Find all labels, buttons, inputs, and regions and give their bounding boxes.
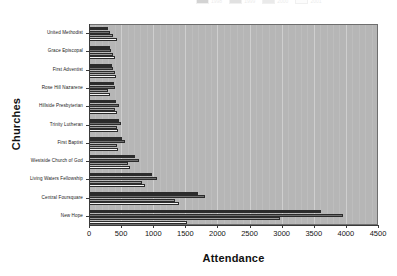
x-axis-line	[89, 225, 379, 226]
legend-label: 1999	[244, 0, 255, 4]
x-axis-tick-label: 4500	[370, 229, 387, 238]
x-axis-tick-labels: 050010001500200025003000350040004500	[0, 229, 397, 243]
x-axis-tick-label: 2500	[241, 229, 258, 238]
y-axis-tick-labels: United MethodistGrace EpiscopalFirst Adv…	[0, 24, 397, 225]
y-axis-tick	[86, 106, 89, 107]
legend-item: 1999	[229, 0, 255, 4]
legend-swatch	[196, 0, 209, 4]
legend-swatch	[295, 0, 308, 4]
y-axis-tick-label: Westside Church of God	[0, 158, 86, 163]
x-axis-tick-label: 3500	[305, 229, 322, 238]
y-axis-tick-label: First Adventist	[0, 67, 86, 72]
legend-label: 2001	[310, 0, 321, 4]
legend-item: 2000	[262, 0, 288, 4]
x-axis-tick-label: 1500	[177, 229, 194, 238]
x-axis-tick	[185, 225, 186, 228]
y-axis-tick-label: Central Foursquare	[0, 195, 86, 200]
x-axis-tick	[282, 225, 283, 228]
legend-swatch	[229, 0, 242, 4]
y-axis-tick	[86, 70, 89, 71]
y-axis-tick-label: New Hope	[0, 213, 86, 218]
x-axis-tick	[346, 225, 347, 228]
legend-label: 1998	[211, 0, 222, 4]
x-axis-tick	[378, 225, 379, 228]
x-axis-tick-label: 3000	[273, 229, 290, 238]
x-axis-tick	[121, 225, 122, 228]
y-axis-tick	[86, 143, 89, 144]
y-axis-tick-label: First Baptist	[0, 140, 86, 145]
y-axis-tick-label: Living Waters Fellowship	[0, 176, 86, 181]
y-axis-tick	[86, 51, 89, 52]
x-axis-tick	[153, 225, 154, 228]
x-axis-tick	[250, 225, 251, 228]
x-axis-tick-label: 1000	[145, 229, 162, 238]
legend-swatch	[262, 0, 275, 4]
y-axis-tick	[86, 88, 89, 89]
x-axis-tick-label: 0	[87, 229, 91, 238]
y-axis-tick-label: Grace Episcopal	[0, 48, 86, 53]
x-axis-tick	[89, 225, 90, 228]
y-axis-tick	[86, 198, 89, 199]
y-axis-tick-label: Rose Hill Nazarene	[0, 85, 86, 90]
y-axis-tick	[86, 216, 89, 217]
x-axis-tick	[314, 225, 315, 228]
attendance-bar-chart: 1998199920002001 Churches United Methodi…	[0, 0, 397, 276]
x-axis-tick-label: 4000	[338, 229, 355, 238]
legend-label: 2000	[277, 0, 288, 4]
y-axis-tick-label: Hillside Presbyterian	[0, 103, 86, 108]
x-axis-tick-label: 2000	[209, 229, 226, 238]
y-axis-tick	[86, 125, 89, 126]
x-axis-tick-label: 500	[115, 229, 128, 238]
y-axis-tick	[86, 161, 89, 162]
y-axis-tick	[86, 33, 89, 34]
chart-legend: 1998199920002001	[196, 0, 386, 5]
y-axis-tick-label: Trinity Lutheran	[0, 122, 86, 127]
legend-item: 1998	[196, 0, 222, 4]
legend-item: 2001	[295, 0, 321, 4]
x-axis-tick	[217, 225, 218, 228]
x-axis-title: Attendance	[89, 252, 378, 264]
y-axis-tick	[86, 179, 89, 180]
y-axis-tick-label: United Methodist	[0, 30, 86, 35]
